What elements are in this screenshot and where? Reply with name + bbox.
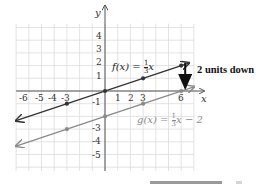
y-tick-3: 3: [96, 45, 102, 54]
x-tick-1: 1: [115, 94, 121, 103]
x-tick-2: 2: [128, 94, 134, 103]
g-function-label: g(x) = 13x − 2: [137, 113, 203, 128]
y-axis-label: y: [95, 8, 101, 18]
y-tick-neg5: -5: [92, 151, 101, 160]
y-tick-2: 2: [96, 58, 102, 67]
y-tick-neg1: -1: [92, 98, 101, 107]
x-tick-neg4: -4: [48, 94, 57, 103]
x-tick-neg6: -6: [19, 94, 28, 103]
g-point: [103, 114, 107, 118]
x-tick-3: 3: [140, 94, 146, 103]
shift-annotation: 2 units down: [197, 64, 254, 75]
y-tick-neg3: -3: [92, 124, 101, 133]
x-tick-neg5: -5: [35, 94, 44, 103]
f-point: [103, 89, 107, 93]
g-label-prefix: g(x) =: [137, 114, 172, 125]
x-tick-neg3: -3: [61, 94, 70, 103]
g-label-suffix: x − 2: [176, 114, 203, 125]
f-function-label: f(x) = 13x: [112, 60, 154, 75]
y-tick-4: 4: [96, 32, 102, 41]
f-point: [141, 76, 145, 80]
f-point: [179, 64, 183, 68]
y-tick-1: 1: [96, 72, 102, 81]
bar-mark: [236, 181, 242, 184]
f-label-prefix: f(x) =: [112, 61, 144, 72]
g-point: [65, 127, 69, 131]
x-axis-label: x: [201, 94, 207, 104]
function-graph: 4 3 2 1 -1 -3 -4 -5 -6 -5 -4 -3 1 2 3 6 …: [0, 0, 260, 184]
x-tick-6: 6: [178, 94, 184, 103]
f-label-suffix: x: [148, 61, 154, 72]
y-tick-neg4: -4: [92, 137, 101, 146]
scroll-bar: [150, 181, 222, 184]
plot-area: [0, 0, 260, 184]
